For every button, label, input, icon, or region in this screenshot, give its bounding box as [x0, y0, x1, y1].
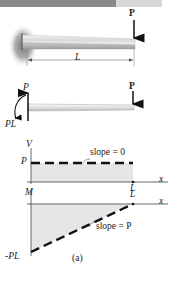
freebody-reaction-force-label: P [23, 83, 29, 93]
moment-y-axis-label: M [25, 188, 33, 198]
freebody-illustration [15, 91, 134, 121]
beam-length-label: L [75, 53, 80, 63]
moment-origin-value-label: -PL [5, 252, 19, 262]
moment-x-axis-label: x [159, 197, 163, 207]
beam-illustration [8, 20, 135, 68]
moment-arrow-curved [15, 95, 26, 119]
freebody-beam [28, 104, 134, 111]
moment-slope-annotation: slope = P [96, 222, 131, 232]
figure-container: P L P PL P V P slope = 0 L x M L x slope… [0, 0, 179, 281]
shear-y-axis-label: V [26, 140, 32, 150]
shear-x-axis-label: x [159, 175, 163, 185]
moment-x-end-label: L [130, 190, 135, 200]
freebody-applied-load-label: P [129, 82, 135, 92]
freebody-reaction-moment-label: PL [5, 120, 16, 130]
figure-caption: (a) [72, 254, 83, 264]
shear-shaded-area [31, 163, 133, 182]
shear-slope-annotation: slope = 0 [90, 148, 125, 158]
moment-x-end-marker [132, 203, 135, 206]
beam-load-label: P [129, 9, 135, 19]
shear-origin-value-label: P [21, 157, 27, 167]
